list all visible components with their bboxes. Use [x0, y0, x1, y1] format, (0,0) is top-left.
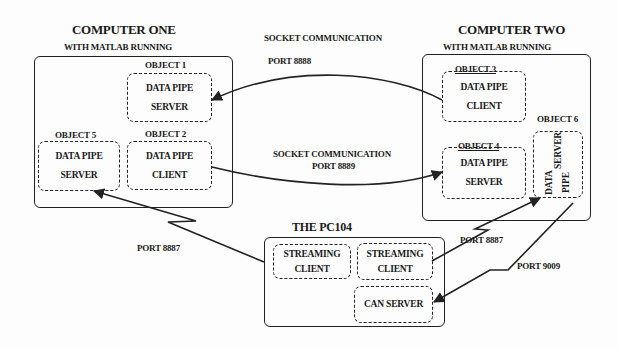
object-3-line1: DATA PIPE: [460, 78, 507, 97]
can-server-label: CAN SERVER: [364, 295, 423, 314]
socket-8888-arrow: [212, 75, 442, 100]
streaming-client-1-line1: STREAMING: [284, 247, 341, 262]
object-2-line1: DATA PIPE: [146, 147, 193, 166]
object-2-label: OBJECT 2: [145, 129, 186, 139]
object-6-label: OBJECT 6: [537, 114, 578, 124]
streaming-client-2-line1: STREAMING: [367, 247, 424, 262]
port-9009-label: PORT 9009: [517, 261, 560, 271]
object-4-data-pipe-server[interactable]: DATA PIPE SERVER: [442, 147, 526, 199]
object-1-data-pipe-server[interactable]: DATA PIPE SERVER: [127, 73, 212, 122]
port-8887-right-label: PORT 8887: [460, 235, 503, 245]
object-6-line2: SERVER: [550, 132, 567, 169]
object-3-data-pipe-client[interactable]: DATA PIPE CLIENT: [442, 71, 526, 122]
computer-one-title: COMPUTER ONE: [72, 22, 176, 38]
object-4-line1: DATA PIPE: [460, 154, 507, 173]
streaming-client-1-line2: CLIENT: [294, 262, 329, 277]
computer-one-subtitle: WITH MATLAB RUNNING: [64, 42, 172, 52]
object-3-line2: CLIENT: [466, 97, 501, 116]
computer-two-title: COMPUTER TWO: [458, 22, 565, 38]
object-1-label: OBJECT 1: [145, 60, 186, 70]
object-1-line1: DATA PIPE: [146, 79, 193, 98]
pc104-title: THE PC104: [292, 220, 352, 235]
object-5-line1: DATA PIPE: [55, 147, 102, 166]
can-server[interactable]: CAN SERVER: [354, 286, 433, 323]
socket-8888-label-line2: PORT 8888: [268, 56, 311, 66]
streaming-client-1[interactable]: STREAMING CLIENT: [273, 244, 351, 279]
socket-8889-label-line1: SOCKET COMMUNICATION: [273, 149, 391, 159]
socket-8889-label-line2: PORT 8889: [312, 161, 355, 171]
object-6-line1: DATA PIPE: [541, 169, 575, 197]
object-5-line2: SERVER: [60, 166, 97, 185]
object-5-data-pipe-server[interactable]: DATA PIPE SERVER: [38, 141, 120, 191]
object-1-line2: SERVER: [151, 98, 188, 117]
object-2-data-pipe-client[interactable]: DATA PIPE CLIENT: [127, 141, 212, 190]
object-6-data-pipe-server[interactable]: DATA PIPE SERVER: [533, 131, 583, 198]
computer-two-subtitle: WITH MATLAB RUNNING: [443, 42, 551, 52]
object-2-line2: CLIENT: [152, 166, 187, 185]
streaming-client-2[interactable]: STREAMING CLIENT: [357, 243, 433, 280]
port-8887-left-label: PORT 8887: [137, 243, 180, 253]
object-5-label: OBJECT 5: [55, 130, 96, 140]
socket-8888-label-line1: SOCKET COMMUNICATION: [264, 33, 382, 43]
streaming-client-2-line2: CLIENT: [377, 262, 412, 277]
object-4-line2: SERVER: [465, 173, 502, 192]
